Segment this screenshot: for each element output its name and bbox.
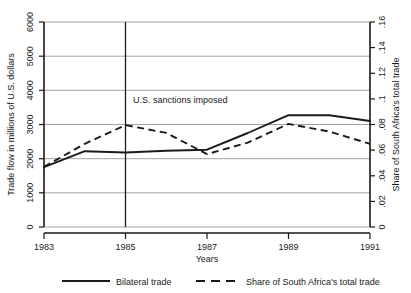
chart-legend: Bilateral trade Share of South Africa's … <box>62 277 380 287</box>
horizontal-gridlines <box>44 22 370 227</box>
axis-spines <box>44 22 370 233</box>
chart-figure: 6000 5000 4000 3000 2000 1000 0 .16 .14 … <box>0 0 411 293</box>
left-tick-label: 3000 <box>25 114 35 134</box>
trade-flow-line-chart: 6000 5000 4000 3000 2000 1000 0 .16 .14 … <box>0 0 411 293</box>
left-tick-label: 4000 <box>25 80 35 100</box>
right-tick-label: .14 <box>377 41 387 54</box>
left-tick-labels: 6000 5000 4000 3000 2000 1000 0 <box>25 12 35 230</box>
x-tick-labels: 1983 1985 1987 1989 1991 <box>34 242 380 252</box>
right-tick-label: .06 <box>377 144 387 157</box>
right-tick-label: .04 <box>377 170 387 183</box>
left-tick-label: 5000 <box>25 46 35 66</box>
legend-label-bilateral-trade: Bilateral trade <box>116 277 172 287</box>
x-tick-label: 1991 <box>360 242 380 252</box>
x-axis-title: Years <box>196 254 219 264</box>
x-tick-label: 1989 <box>278 242 298 252</box>
series-line-bilateral-trade <box>44 115 370 167</box>
legend-label-share-of-total-trade: Share of South Africa's total trade <box>246 277 380 287</box>
y2-axis-title: Share of South Africa's total trade <box>391 58 401 192</box>
x-tick-label: 1983 <box>34 242 54 252</box>
left-tick-label: 6000 <box>25 12 35 32</box>
left-tick-label: 0 <box>25 224 35 229</box>
right-tick-label: .1 <box>377 95 387 103</box>
right-tick-label: .08 <box>377 118 387 131</box>
sanctions-annotation-label: U.S. sanctions imposed <box>133 95 228 105</box>
y-axis-title: Trade flow in millions of U.S. dollars <box>6 53 16 196</box>
right-tick-label: .16 <box>377 16 387 29</box>
right-tick-label: .12 <box>377 67 387 80</box>
x-tick-label: 1985 <box>115 242 135 252</box>
left-tick-label: 2000 <box>25 149 35 169</box>
left-tick-label: 1000 <box>25 183 35 203</box>
x-tick-label: 1987 <box>197 242 217 252</box>
right-tick-label: 0 <box>377 224 387 229</box>
x-axis-ticks <box>44 233 370 239</box>
right-tick-label: .02 <box>377 195 387 208</box>
right-tick-labels: .16 .14 .12 .1 .08 .06 .04 .02 0 <box>377 16 387 230</box>
series-line-share-of-total-trade <box>44 124 370 167</box>
